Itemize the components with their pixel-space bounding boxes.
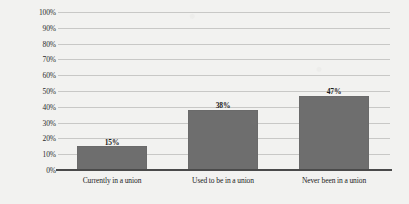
y-axis-tick-label: 30%: [4, 118, 56, 127]
x-axis-category-label: Used to be in a union: [192, 176, 254, 185]
x-axis-category-label: Currently in a union: [83, 176, 142, 185]
y-axis-tick-label: 90%: [4, 23, 56, 32]
y-axis-tick-label: 70%: [4, 55, 56, 64]
y-axis-tick-label: 100%: [4, 8, 56, 17]
bar-value-label: 38%: [216, 101, 231, 110]
x-axis-category-label: Never been in a union: [302, 176, 366, 185]
y-axis-tick-label: 10%: [4, 150, 56, 159]
gridline: [58, 44, 390, 45]
bar-value-label: 15%: [105, 138, 120, 147]
gridline: [58, 28, 390, 29]
y-axis-tick-label: 80%: [4, 39, 56, 48]
x-axis-line: [56, 169, 392, 171]
bar: [188, 110, 258, 170]
bar: [299, 96, 369, 170]
bar: [77, 146, 147, 170]
y-axis: 100% 90% 80% 70% 60% 50% 40% 30% 20% 10%…: [0, 0, 56, 204]
gridline: [58, 59, 390, 60]
gridline: [58, 12, 390, 13]
bar-value-label: 47%: [327, 87, 342, 96]
y-axis-tick-label: 60%: [4, 71, 56, 80]
y-axis-tick-label: 40%: [4, 102, 56, 111]
y-axis-tick-label: 0%: [4, 166, 56, 175]
bar-chart: 100% 90% 80% 70% 60% 50% 40% 30% 20% 10%…: [0, 0, 409, 204]
gridline: [58, 75, 390, 76]
y-axis-tick-label: 50%: [4, 87, 56, 96]
y-axis-tick-label: 20%: [4, 134, 56, 143]
